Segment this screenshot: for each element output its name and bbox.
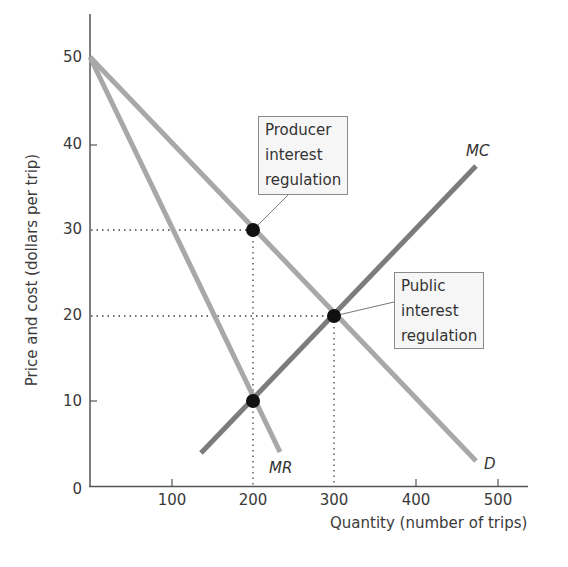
producer-callout-leader — [253, 195, 288, 230]
x-tick-label: 400 — [391, 493, 441, 508]
x-axis-ticks — [172, 479, 498, 486]
callout-line: interest — [265, 143, 341, 168]
y-tick-label: 50 — [52, 50, 82, 65]
y-axis-ticks — [90, 145, 97, 401]
producer-interest-callout: Producer interest regulation — [258, 116, 348, 195]
producer-interest-point — [246, 223, 260, 237]
y-tick-label: 20 — [52, 308, 82, 323]
mr-mc-intersection-point — [246, 394, 260, 408]
callout-line: regulation — [401, 324, 477, 349]
x-tick-label: 200 — [228, 493, 278, 508]
y-tick-label: 40 — [52, 137, 82, 152]
callout-line: Producer — [265, 118, 341, 143]
mr-curve-label: MR — [269, 459, 292, 477]
public-interest-callout: Public interest regulation — [394, 272, 484, 349]
y-tick-label: 10 — [52, 394, 82, 409]
mc-curve-label: MC — [466, 142, 489, 160]
callout-line: interest — [401, 299, 477, 324]
guide-lines — [91, 230, 334, 486]
callout-line: Public — [401, 274, 477, 299]
public-interest-point — [327, 309, 341, 323]
x-tick-label: 500 — [473, 493, 523, 508]
y-tick-label: 30 — [52, 222, 82, 237]
callout-line: regulation — [265, 168, 341, 193]
x-tick-label: 100 — [147, 493, 197, 508]
d-curve-label: D — [484, 455, 496, 473]
marginal-revenue-curve — [90, 57, 280, 452]
y-axis-title: Price and cost (dollars per trip) — [23, 154, 41, 386]
origin-label: 0 — [52, 482, 82, 497]
x-tick-label: 300 — [309, 493, 359, 508]
x-axis-title: Quantity (number of trips) — [330, 514, 527, 532]
